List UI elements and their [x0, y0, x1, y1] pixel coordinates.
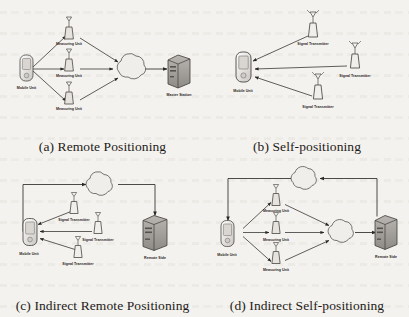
- network-cloud-icon-c: [86, 172, 112, 196]
- network-cloud-icon-a: [117, 54, 146, 79]
- signal-transmitter-label-c2: Signal Transmitter: [82, 238, 114, 242]
- measuring-unit-icon-a2: [65, 49, 74, 71]
- mobile-unit-icon-c: [23, 219, 37, 246]
- master-station-icon-a: [168, 55, 190, 88]
- mobile-unit-label-c: Mobile Unit: [19, 252, 39, 256]
- measuring-unit-label-a3: Measuring Unit: [56, 107, 83, 111]
- signal-transmitter-label-b1: Signal Transmitter: [297, 42, 329, 46]
- measuring-unit-icon-d3: [272, 243, 280, 264]
- signal-transmitter-icon-b3: [312, 72, 324, 99]
- signal-transmitter-icon-c3: [74, 237, 82, 258]
- panel-a-remote-positioning: Mobile Unit Measuring Unit Measuring Uni…: [0, 0, 205, 158]
- mobile-unit-icon-b: [236, 52, 251, 82]
- figure-panel-grid: Mobile Unit Measuring Unit Measuring Uni…: [0, 0, 409, 317]
- measuring-unit-icon-a3: [65, 82, 74, 104]
- network-cloud-icon-d-lower: [328, 220, 353, 243]
- panel-b-diagram: Mobile Unit Signal Transmitter: [205, 0, 409, 132]
- measuring-unit-label-a2: Measuring Unit: [56, 74, 83, 78]
- panel-d-diagram: Mobile Unit Measuring Unit Measuring Uni…: [205, 158, 409, 291]
- signal-transmitter-icon-b1: [307, 10, 319, 37]
- signal-transmitter-icon-c2: [94, 213, 102, 234]
- panel-d-caption: (d) Indirect Self-positioning: [205, 298, 409, 314]
- panel-c-caption: (c) Indirect Remote Positioning: [0, 298, 205, 314]
- measuring-unit-label-a1: Measuring Unit: [56, 42, 83, 46]
- mobile-unit-label-a: Mobile Unit: [17, 86, 37, 90]
- mobile-unit-icon-d: [221, 221, 234, 247]
- signal-transmitter-label-c3: Signal Transmitter: [62, 262, 94, 266]
- panel-b-caption: (b) Self-positioning: [205, 139, 409, 155]
- panel-a-caption: (a) Remote Positioning: [0, 139, 205, 155]
- measuring-unit-icon-a1: [65, 17, 74, 39]
- panel-b-self-positioning: Mobile Unit Signal Transmitter: [205, 0, 409, 158]
- panel-c-diagram: Mobile Unit Signal Transmitter: [0, 158, 205, 291]
- mobile-unit-icon-a: [20, 55, 33, 81]
- mobile-unit-label-b: Mobile Unit: [233, 89, 253, 93]
- network-cloud-icon-d-upper: [291, 167, 316, 190]
- measuring-unit-label-d2: Measuring Unit: [263, 238, 290, 242]
- signal-transmitter-icon-c1: [70, 193, 78, 214]
- mobile-unit-label-d: Mobile Unit: [217, 253, 237, 257]
- panel-d-indirect-self-positioning: Mobile Unit Measuring Unit Measuring Uni…: [205, 158, 409, 317]
- remote-side-icon-d: [375, 216, 397, 250]
- measuring-unit-icon-d1: [272, 185, 280, 206]
- remote-side-label-d: Remote Side: [375, 255, 397, 259]
- measuring-unit-icon-d2: [272, 213, 280, 234]
- panel-a-diagram: Mobile Unit Measuring Unit Measuring Uni…: [0, 0, 205, 132]
- master-station-label-a: Master Station: [167, 93, 192, 97]
- panel-c-indirect-remote-positioning: Mobile Unit Signal Transmitter: [0, 158, 205, 317]
- measuring-unit-label-d3: Measuring Unit: [263, 268, 290, 272]
- remote-side-icon-c: [143, 216, 167, 251]
- signal-transmitter-icon-b2: [349, 41, 361, 68]
- remote-side-label-c: Remote Side: [144, 256, 166, 260]
- signal-transmitter-label-b3: Signal Transmitter: [302, 105, 334, 109]
- signal-transmitter-label-c1: Signal Transmitter: [58, 218, 90, 222]
- signal-transmitter-label-b2: Signal Transmitter: [339, 74, 371, 78]
- measuring-unit-label-d1: Measuring Unit: [263, 209, 290, 213]
